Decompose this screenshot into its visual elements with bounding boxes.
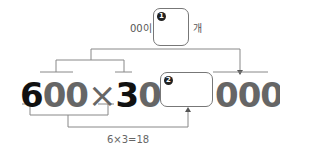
highlight-digit-6: 6 <box>20 75 43 115</box>
times-sign: × <box>88 75 116 115</box>
hint-calculation: 6×3=18 <box>107 134 149 145</box>
zeros-a: 00 <box>43 75 88 115</box>
answer-box-2[interactable]: 2 <box>160 72 213 107</box>
top-suffix: 개 <box>193 20 202 35</box>
answer-box-1[interactable]: 1 <box>153 8 189 46</box>
badge-1: 1 <box>157 12 166 21</box>
highlight-digit-3: 3 <box>116 75 139 115</box>
top-prefix: 00이 <box>130 20 152 35</box>
zero-b: 0 <box>138 75 161 115</box>
trailing-zeros: 000 <box>215 78 280 112</box>
badge-2: 2 <box>164 76 173 85</box>
